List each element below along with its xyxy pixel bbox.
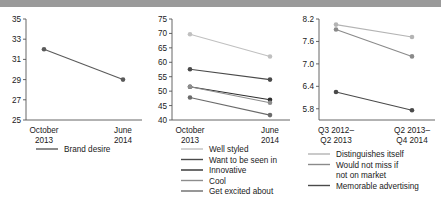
y-axis-ticks-middle: 4045505560657075	[158, 15, 172, 125]
y-tick-label: 45	[158, 102, 168, 111]
top-gray-band	[0, 0, 441, 7]
legend-label: Brand desire	[64, 145, 111, 154]
y-tick-label: 25	[12, 116, 22, 125]
data-point	[188, 95, 193, 100]
x-tick-label: October	[175, 126, 204, 135]
y-tick-label: 70	[158, 29, 168, 38]
data-point	[42, 47, 47, 52]
series-right-1	[334, 27, 415, 59]
legend-middle: Well styledWant to be seen inInnovativeC…	[181, 145, 277, 196]
legend-label: Innovative	[209, 166, 247, 175]
data-point	[188, 32, 193, 37]
data-point	[334, 22, 339, 27]
chart-panel-differentiation: 5.86.47.07.68.2Q3 2012–Q2 2013Q2 2013–Q4…	[296, 7, 441, 210]
x-tick-label: 2014	[261, 136, 280, 145]
chart-panel-brand-desire: 252729313335October2013June2014Brand des…	[0, 7, 148, 210]
x-tick-label: Q2 2013–	[394, 126, 430, 135]
x-tick-label: June	[114, 126, 132, 135]
series-right-2	[334, 90, 415, 113]
series-right-0	[334, 22, 415, 39]
axes-right	[319, 19, 435, 120]
data-point	[121, 77, 126, 82]
x-axis-labels-right: Q3 2012–Q2 2013Q2 2013–Q4 2014	[318, 126, 430, 145]
y-axis-ticks-left: 252729313335	[12, 15, 26, 125]
x-axis-labels-left: October2013June2014	[29, 126, 132, 145]
x-tick-label: Q3 2012–	[318, 126, 354, 135]
legend-label: Well styled	[209, 145, 249, 154]
y-tick-label: 50	[158, 87, 168, 96]
legend-label: Want to be seen in	[209, 156, 277, 165]
data-point	[268, 113, 273, 118]
series-middle-3	[188, 85, 273, 105]
x-tick-label: 2013	[181, 136, 200, 145]
y-tick-label: 75	[158, 15, 168, 24]
data-point	[188, 85, 193, 90]
y-tick-label: 33	[12, 35, 22, 44]
x-tick-label: June	[261, 126, 279, 135]
legend-label: Distinguishes itself	[336, 150, 405, 159]
legend-label-continued: not on market	[336, 171, 387, 180]
y-tick-label: 40	[158, 116, 168, 125]
y-tick-label: 55	[158, 73, 168, 82]
data-point	[334, 27, 339, 32]
y-tick-label: 7.0	[303, 60, 315, 69]
y-tick-label: 60	[158, 58, 168, 67]
data-point	[268, 54, 273, 59]
legend-label: Get excited about	[209, 187, 274, 196]
y-tick-label: 65	[158, 44, 168, 53]
y-tick-label: 35	[12, 15, 22, 24]
data-point	[410, 54, 415, 59]
series-middle-0	[188, 32, 273, 59]
y-tick-label: 5.8	[303, 105, 315, 114]
chart-svg-right: 5.86.47.07.68.2Q3 2012–Q2 2013Q2 2013–Q4…	[296, 7, 441, 210]
x-tick-label: October	[29, 126, 58, 135]
chart-svg-middle: 4045505560657075October2013June2014Well …	[148, 7, 296, 210]
legend-right: Distinguishes itselfWould not miss ifnot…	[308, 150, 419, 191]
x-tick-label: 2014	[114, 136, 133, 145]
x-tick-label: 2013	[35, 136, 54, 145]
y-tick-label: 8.2	[303, 15, 315, 24]
y-tick-label: 6.4	[303, 82, 315, 91]
y-tick-label: 7.6	[303, 37, 315, 46]
data-point	[334, 90, 339, 95]
data-point	[410, 35, 415, 40]
y-tick-label: 31	[12, 55, 22, 64]
data-point	[188, 67, 193, 72]
axes-left	[26, 19, 142, 120]
series-left-0	[42, 47, 126, 82]
data-point	[410, 108, 415, 113]
x-tick-label: Q4 2014	[396, 136, 428, 145]
y-axis-ticks-right: 5.86.47.07.68.2	[303, 15, 319, 114]
legend-label: Cool	[209, 177, 226, 186]
chart-svg-left: 252729313335October2013June2014Brand des…	[0, 7, 148, 210]
chart-panel-brand-attributes: 4045505560657075October2013June2014Well …	[148, 7, 296, 210]
data-point	[268, 77, 273, 82]
y-tick-label: 27	[12, 96, 22, 105]
series-middle-1	[188, 67, 273, 82]
legend-left: Brand desire	[36, 145, 111, 154]
y-tick-label: 29	[12, 76, 22, 85]
data-point	[268, 100, 273, 105]
x-axis-labels-middle: October2013June2014	[175, 126, 279, 145]
legend-label: Memorable advertising	[336, 182, 419, 191]
x-tick-label: Q2 2013	[320, 136, 352, 145]
legend-label: Would not miss if	[336, 161, 399, 170]
